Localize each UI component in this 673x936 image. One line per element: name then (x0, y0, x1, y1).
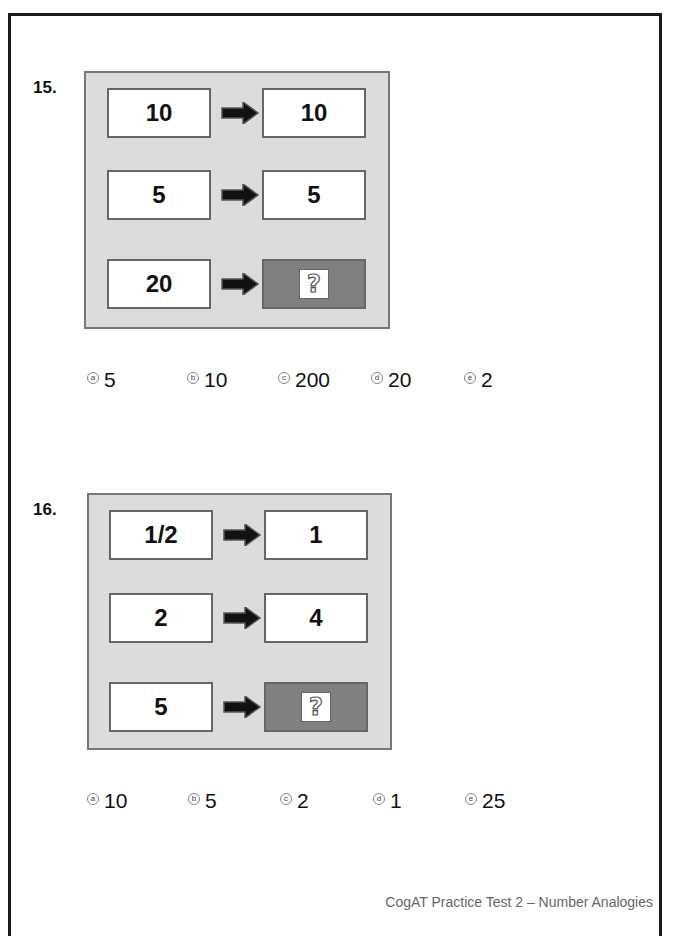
right-arrow-icon (223, 607, 261, 629)
right-arrow-icon (223, 696, 261, 718)
output-box: 1 (264, 510, 368, 560)
right-arrow-icon (221, 184, 259, 206)
answer-bubble-icon[interactable]: c (280, 793, 292, 805)
choice-c[interactable]: c 2 (280, 789, 309, 813)
choice-value: 20 (388, 368, 411, 392)
analogy-panel-16: 1/2 1 2 4 5 ? (87, 493, 392, 750)
choice-a[interactable]: a 5 (87, 368, 116, 392)
choice-value: 2 (297, 789, 309, 813)
question-mark-icon: ? (301, 692, 331, 722)
answer-bubble-icon[interactable]: c (278, 372, 290, 384)
unknown-answer-box: ? (262, 259, 366, 309)
choice-b[interactable]: b 5 (188, 789, 217, 813)
answer-bubble-icon[interactable]: e (465, 793, 477, 805)
input-box: 20 (107, 259, 211, 309)
choice-value: 25 (482, 789, 505, 813)
question-number-15: 15. (33, 78, 57, 98)
unknown-answer-box: ? (264, 682, 368, 732)
answer-choices-16: a 10 b 5 c 2 d 1 e 25 (0, 789, 673, 819)
input-box: 1/2 (109, 510, 213, 560)
choice-e[interactable]: e 25 (465, 789, 505, 813)
choice-value: 10 (204, 368, 227, 392)
choice-a[interactable]: a 10 (87, 789, 127, 813)
answer-bubble-icon[interactable]: d (373, 793, 385, 805)
right-arrow-icon (221, 273, 259, 295)
choice-d[interactable]: d 20 (371, 368, 411, 392)
choice-value: 1 (390, 789, 402, 813)
right-arrow-icon (223, 524, 261, 546)
choice-b[interactable]: b 10 (187, 368, 227, 392)
question-mark-icon: ? (299, 269, 329, 299)
choice-value: 2 (481, 368, 493, 392)
page-footer: CogAT Practice Test 2 – Number Analogies (385, 894, 653, 910)
choice-value: 5 (205, 789, 217, 813)
output-box: 10 (262, 88, 366, 138)
output-box: 5 (262, 170, 366, 220)
answer-bubble-icon[interactable]: b (187, 372, 199, 384)
answer-bubble-icon[interactable]: e (464, 372, 476, 384)
analogy-panel-15: 10 10 5 5 20 ? (84, 71, 390, 329)
choice-value: 5 (104, 368, 116, 392)
input-box: 5 (107, 170, 211, 220)
question-number-16: 16. (33, 500, 57, 520)
answer-bubble-icon[interactable]: d (371, 372, 383, 384)
choice-value: 10 (104, 789, 127, 813)
choice-e[interactable]: e 2 (464, 368, 493, 392)
right-arrow-icon (221, 102, 259, 124)
choice-c[interactable]: c 200 (278, 368, 330, 392)
input-box: 10 (107, 88, 211, 138)
answer-bubble-icon[interactable]: b (188, 793, 200, 805)
input-box: 5 (109, 682, 213, 732)
output-box: 4 (264, 593, 368, 643)
answer-choices-15: a 5 b 10 c 200 d 20 e 2 (0, 368, 673, 398)
input-box: 2 (109, 593, 213, 643)
choice-value: 200 (295, 368, 330, 392)
answer-bubble-icon[interactable]: a (87, 372, 99, 384)
choice-d[interactable]: d 1 (373, 789, 402, 813)
answer-bubble-icon[interactable]: a (87, 793, 99, 805)
